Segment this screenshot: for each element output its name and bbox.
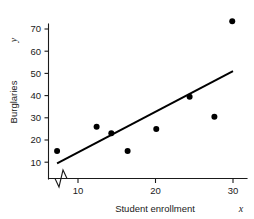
data-point [211, 114, 217, 120]
y-tick-label-10: 10 [30, 157, 41, 168]
data-point [94, 124, 100, 130]
y-axis-title-text: Burglaries [8, 80, 19, 123]
data-point [187, 94, 193, 100]
data-point [125, 148, 131, 154]
y-tick-label-40: 40 [30, 90, 41, 101]
y-tick-label-50: 50 [30, 68, 41, 79]
y-axis-title-variable: y [8, 37, 19, 43]
x-tick-label-10: 10 [73, 185, 84, 196]
x-axis-tick-labels: 10 20 30 [73, 185, 239, 196]
y-tick-label-60: 60 [30, 46, 41, 57]
x-axis-ticks [78, 179, 233, 184]
y-axis-tick-labels: 70 60 50 40 30 20 10 [30, 23, 41, 167]
x-tick-label-30: 30 [228, 185, 239, 196]
y-axis-title: Burglaries y [8, 37, 19, 123]
data-point [153, 126, 159, 132]
data-point [229, 18, 235, 24]
y-tick-label-20: 20 [30, 134, 41, 145]
x-axis-title-text: Student enrollment [115, 203, 195, 214]
x-tick-label-20: 20 [150, 185, 161, 196]
plot-canvas: 70 60 50 40 30 20 10 10 20 30 [0, 0, 254, 219]
data-points-group [54, 18, 235, 154]
trend-line [57, 71, 233, 163]
data-point [108, 130, 114, 136]
y-tick-label-30: 30 [30, 112, 41, 123]
y-axis-ticks [45, 29, 49, 162]
y-tick-label-70: 70 [30, 23, 41, 34]
data-point [54, 148, 60, 154]
scatter-plot-figure: 70 60 50 40 30 20 10 10 20 30 [0, 0, 254, 219]
x-axis-title-variable: x [238, 203, 244, 214]
x-axis-title: Student enrollment x [115, 203, 244, 214]
